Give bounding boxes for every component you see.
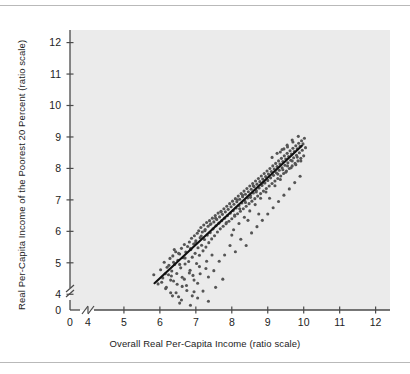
data-point [191, 294, 194, 297]
data-point [230, 234, 233, 237]
data-point [277, 159, 280, 162]
data-point [228, 244, 231, 247]
data-point [273, 179, 276, 182]
data-point [225, 221, 228, 224]
data-point [248, 202, 251, 205]
data-point [280, 157, 283, 160]
data-point [297, 135, 300, 138]
data-point [152, 273, 155, 276]
data-point [271, 156, 274, 159]
data-point [225, 205, 228, 208]
data-point [282, 194, 285, 197]
data-point [237, 195, 240, 198]
data-point [178, 263, 181, 266]
data-point [286, 152, 289, 155]
data-point [245, 205, 248, 208]
y-axis-tick-label: 8 [55, 162, 61, 174]
data-point [186, 245, 189, 248]
data-point [256, 195, 259, 198]
data-point [187, 260, 190, 263]
data-point [223, 253, 226, 256]
data-point [175, 272, 178, 275]
y-axis-tick-label: 11 [50, 68, 61, 80]
data-point [257, 212, 260, 215]
data-point [224, 210, 227, 213]
data-point [222, 225, 225, 228]
data-point [221, 278, 224, 281]
top-divider [0, 5, 410, 6]
data-point [250, 200, 253, 203]
data-point [241, 194, 244, 197]
data-point [185, 284, 188, 287]
data-point [169, 279, 172, 282]
data-point [183, 243, 186, 246]
data-point [212, 220, 215, 223]
data-point [294, 144, 297, 147]
data-point [170, 274, 173, 277]
data-point [207, 275, 210, 278]
data-point [179, 266, 182, 269]
data-point [271, 182, 274, 185]
data-point [207, 300, 210, 303]
data-point [291, 159, 294, 162]
y-axis-tick-label: 6 [55, 225, 61, 237]
y-axis-tick-label: 12 [49, 36, 61, 48]
x-axis-title: Overall Real Per-Capita Income (ratio sc… [0, 338, 410, 349]
data-point [214, 286, 217, 289]
data-point [259, 192, 262, 195]
data-point [163, 261, 166, 264]
data-point [177, 252, 180, 255]
data-point [168, 257, 171, 260]
data-point [230, 217, 233, 220]
data-point [239, 238, 242, 241]
data-point [242, 190, 245, 193]
data-point [236, 212, 239, 215]
figure-page: 45678910111245678910111200 Overall Real … [0, 0, 410, 374]
data-point [159, 268, 162, 271]
data-point [191, 274, 194, 277]
data-point [222, 207, 225, 210]
data-point [218, 260, 221, 263]
x-axis-tick-label: 7 [193, 316, 199, 328]
data-point [176, 283, 179, 286]
data-point [157, 282, 160, 285]
data-point [175, 291, 178, 294]
data-point [196, 246, 199, 249]
data-point [281, 148, 284, 151]
data-point [276, 173, 279, 176]
data-point [263, 172, 266, 175]
data-point [286, 164, 289, 167]
scatter-plot-canvas: 45678910111245678910111200 [0, 8, 410, 360]
x-axis-tick-label: 5 [121, 316, 127, 328]
data-point [284, 171, 287, 174]
data-point [199, 226, 202, 229]
data-point [190, 237, 193, 240]
data-point [204, 246, 207, 249]
data-point [297, 142, 300, 145]
data-point [254, 203, 257, 206]
data-point [218, 215, 221, 218]
data-point [205, 221, 208, 224]
data-point [180, 298, 183, 301]
data-point [177, 295, 180, 298]
data-point [181, 285, 184, 288]
data-point [242, 207, 245, 210]
data-point [290, 166, 293, 169]
data-point [197, 229, 200, 232]
data-point [268, 197, 271, 200]
data-point [216, 230, 219, 233]
data-point [255, 190, 258, 193]
data-point [217, 212, 220, 215]
data-point [272, 206, 275, 209]
data-point [255, 225, 258, 228]
data-point [299, 175, 302, 178]
x-axis-tick-label: 6 [157, 316, 163, 328]
y-axis-origin-label: 0 [55, 304, 61, 316]
data-point [237, 222, 240, 225]
data-point [200, 235, 203, 238]
data-point [167, 264, 170, 267]
data-point [212, 269, 215, 272]
data-point [236, 198, 239, 201]
y-axis-tick-label: 9 [55, 131, 61, 143]
data-point [228, 202, 231, 205]
